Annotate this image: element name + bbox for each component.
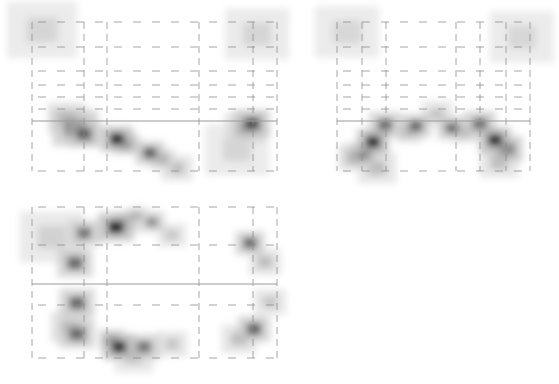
density-blobs: [7, 2, 289, 181]
heatmap-canvas: [32, 207, 277, 358]
density-blobs: [20, 207, 286, 372]
density-blobs: [315, 6, 554, 183]
heatmap-panel-top-right: [337, 22, 530, 171]
heatmap-panel-top-left: [32, 22, 277, 171]
heatmap-canvas: [337, 22, 530, 171]
heatmap-panel-bottom-left: [32, 207, 277, 358]
heatmap-canvas: [32, 22, 277, 171]
